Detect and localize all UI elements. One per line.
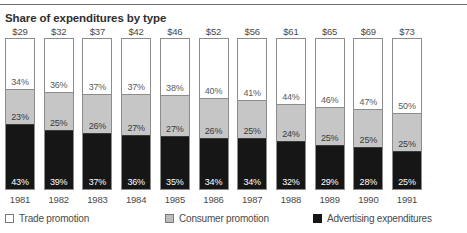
segment-value-label: 28% — [360, 178, 377, 189]
bar-segment-advertising-expenditures[interactable]: 25% — [393, 151, 421, 189]
x-axis-tick-label: 1991 — [390, 194, 424, 205]
bar-segment-trade-promotion[interactable]: 46% — [316, 39, 344, 107]
stacked-bar[interactable]: 40%26%34% — [199, 38, 229, 190]
segment-value-label: 26% — [89, 122, 106, 133]
bar-segment-advertising-expenditures[interactable]: 32% — [277, 141, 305, 189]
segment-value-label: 32% — [282, 178, 299, 189]
bar-column[interactable]: $2934%23%43%1981 — [5, 26, 35, 206]
segment-value-label: 25% — [360, 136, 377, 147]
bar-column[interactable]: $6546%25%29%1989 — [315, 26, 345, 206]
bar-segment-advertising-expenditures[interactable]: 29% — [316, 145, 344, 189]
bar-total-label: $42 — [121, 26, 151, 37]
bar-segment-trade-promotion[interactable]: 40% — [200, 39, 228, 98]
stacked-bar[interactable]: 47%25%28% — [353, 38, 383, 190]
segment-value-label: 40% — [205, 87, 222, 98]
bar-segment-consumer-promotion[interactable]: 25% — [238, 100, 266, 138]
bar-column[interactable]: $6144%24%32%1988 — [276, 26, 306, 206]
segment-value-label: 27% — [166, 125, 183, 136]
bar-segment-consumer-promotion[interactable]: 24% — [277, 104, 305, 141]
bar-column[interactable]: $5240%26%34%1986 — [199, 26, 229, 206]
segment-value-label: 29% — [321, 178, 338, 189]
segment-value-label: 24% — [282, 130, 299, 141]
bar-segment-consumer-promotion[interactable]: 25% — [393, 113, 421, 151]
bar-column[interactable]: $4237%27%36%1984 — [121, 26, 151, 206]
segment-value-label: 38% — [166, 84, 183, 95]
bar-column[interactable]: $5641%25%34%1987 — [237, 26, 267, 206]
stacked-bar[interactable]: 46%25%29% — [315, 38, 345, 190]
segment-value-label: 25% — [398, 178, 415, 189]
segment-value-label: 26% — [205, 127, 222, 138]
legend-item-trade-promotion[interactable]: Trade promotion — [5, 213, 89, 224]
bar-segment-trade-promotion[interactable]: 41% — [238, 39, 266, 100]
bar-segment-trade-promotion[interactable]: 34% — [6, 39, 34, 89]
bar-segment-consumer-promotion[interactable]: 26% — [83, 94, 111, 133]
bar-segment-advertising-expenditures[interactable]: 34% — [200, 138, 228, 189]
bar-segment-consumer-promotion[interactable]: 25% — [45, 92, 73, 130]
stacked-bar[interactable]: 38%27%35% — [160, 38, 190, 190]
bar-segment-consumer-promotion[interactable]: 27% — [122, 94, 150, 135]
x-axis-tick-label: 1986 — [197, 194, 231, 205]
bar-segment-advertising-expenditures[interactable]: 39% — [45, 130, 73, 189]
bar-segment-consumer-promotion[interactable]: 25% — [354, 109, 382, 147]
chart-title: Share of expenditures by type — [5, 12, 166, 24]
segment-value-label: 39% — [50, 178, 67, 189]
bar-segment-advertising-expenditures[interactable]: 34% — [238, 138, 266, 189]
bar-segment-consumer-promotion[interactable]: 27% — [161, 95, 189, 136]
bar-segment-consumer-promotion[interactable]: 26% — [200, 98, 228, 137]
bar-segment-advertising-expenditures[interactable]: 28% — [354, 147, 382, 189]
gray-square-icon — [165, 214, 174, 223]
bar-segment-trade-promotion[interactable]: 50% — [393, 39, 421, 113]
bar-total-label: $37 — [82, 26, 112, 37]
stacked-bar[interactable]: 44%24%32% — [276, 38, 306, 190]
segment-value-label: 47% — [360, 98, 377, 109]
black-square-icon — [313, 214, 322, 223]
x-axis-tick-label: 1982 — [42, 194, 76, 205]
bar-total-label: $73 — [392, 26, 422, 37]
x-axis-tick-label: 1981 — [3, 194, 37, 205]
legend-item-advertising-expenditures[interactable]: Advertising expenditures — [313, 213, 432, 224]
stacked-bar[interactable]: 50%25%25% — [392, 38, 422, 190]
bar-segment-consumer-promotion[interactable]: 25% — [316, 107, 344, 145]
x-axis-tick-label: 1989 — [313, 194, 347, 205]
segment-value-label: 36% — [50, 81, 67, 92]
segment-value-label: 35% — [166, 178, 183, 189]
bar-segment-consumer-promotion[interactable]: 23% — [6, 89, 34, 124]
stacked-bar[interactable]: 34%23%43% — [5, 38, 35, 190]
bar-segment-advertising-expenditures[interactable]: 37% — [83, 133, 111, 189]
bar-segment-advertising-expenditures[interactable]: 36% — [122, 135, 150, 189]
white-square-icon — [5, 214, 14, 223]
x-axis-tick-label: 1984 — [119, 194, 153, 205]
bar-column[interactable]: $6947%25%28%1990 — [353, 26, 383, 206]
chart-legend: Trade promotionConsumer promotionAdverti… — [5, 213, 462, 231]
bar-segment-advertising-expenditures[interactable]: 35% — [161, 136, 189, 189]
segment-value-label: 25% — [321, 134, 338, 145]
bar-segment-trade-promotion[interactable]: 36% — [45, 39, 73, 92]
bar-total-label: $29 — [5, 26, 35, 37]
stacked-bar[interactable]: 41%25%34% — [237, 38, 267, 190]
segment-value-label: 37% — [127, 83, 144, 94]
bar-column[interactable]: $4638%27%35%1985 — [160, 26, 190, 206]
segment-value-label: 41% — [243, 89, 260, 100]
bar-total-label: $46 — [160, 26, 190, 37]
bar-segment-trade-promotion[interactable]: 38% — [161, 39, 189, 95]
bar-segment-trade-promotion[interactable]: 37% — [122, 39, 150, 94]
bar-segment-trade-promotion[interactable]: 44% — [277, 39, 305, 104]
bar-column[interactable]: $7350%25%25%1991 — [392, 26, 422, 206]
segment-value-label: 27% — [127, 124, 144, 135]
bar-column[interactable]: $3236%25%39%1982 — [44, 26, 74, 206]
stacked-bar[interactable]: 37%26%37% — [82, 38, 112, 190]
stacked-bar[interactable]: 37%27%36% — [121, 38, 151, 190]
legend-item-consumer-promotion[interactable]: Consumer promotion — [165, 213, 269, 224]
segment-value-label: 36% — [127, 178, 144, 189]
bar-segment-advertising-expenditures[interactable]: 43% — [6, 124, 34, 189]
bar-column[interactable]: $3737%26%37%1983 — [82, 26, 112, 206]
x-axis-tick-label: 1988 — [274, 194, 308, 205]
x-axis-tick-label: 1983 — [80, 194, 114, 205]
bar-segment-trade-promotion[interactable]: 47% — [354, 39, 382, 109]
bar-segment-trade-promotion[interactable]: 37% — [83, 39, 111, 94]
x-axis-tick-label: 1987 — [235, 194, 269, 205]
legend-item-label: Advertising expenditures — [327, 213, 432, 224]
plot-area: $2934%23%43%1981$3236%25%39%1982$3737%26… — [5, 26, 462, 206]
segment-value-label: 37% — [89, 178, 106, 189]
stacked-bar[interactable]: 36%25%39% — [44, 38, 74, 190]
